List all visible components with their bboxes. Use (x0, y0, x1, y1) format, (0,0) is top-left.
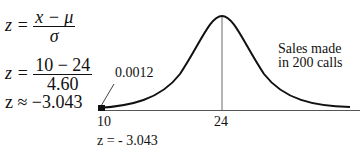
tail-leader-line (101, 84, 114, 106)
tick-24: 24 (214, 115, 228, 129)
curve-label-line-2: in 200 calls (278, 56, 343, 70)
z-value-text: z = - 3.043 (97, 133, 158, 148)
normal-curve-chart (0, 0, 360, 153)
curve-label-line-1: Sales made (278, 42, 343, 56)
curve-label: Sales made in 200 calls (278, 42, 343, 70)
tail-area-label: 0.0012 (115, 66, 154, 80)
tick-10: 10 (97, 115, 111, 129)
z-value-label: z = - 3.043 (97, 134, 158, 148)
